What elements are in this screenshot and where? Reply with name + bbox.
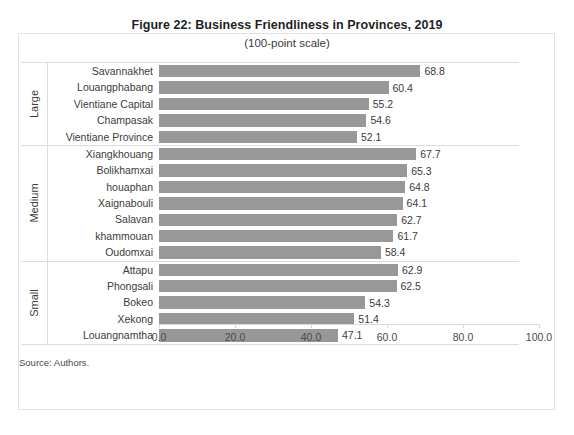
category-label: khammouan bbox=[47, 231, 159, 242]
group-rows: Savannakhet68.8Louangphabang60.4Vientian… bbox=[47, 63, 519, 145]
category-label: Xiangkhouang bbox=[47, 149, 159, 160]
bar-row: Salavan62.7 bbox=[47, 212, 519, 228]
bar-track: 68.8 bbox=[159, 63, 519, 79]
bar-value-label: 52.1 bbox=[361, 131, 381, 143]
chart-title: Figure 22: Business Friendliness in Prov… bbox=[0, 18, 574, 32]
bar bbox=[159, 214, 397, 226]
bar bbox=[159, 230, 393, 242]
bar bbox=[159, 148, 416, 160]
bar bbox=[159, 114, 366, 126]
size-group-small: SmallAttapu62.9Phongsali62.5Bokeo54.3Xek… bbox=[21, 261, 519, 345]
x-tick-mark bbox=[539, 324, 540, 328]
bar bbox=[159, 197, 403, 209]
bar bbox=[159, 264, 398, 276]
bar-track: 52.1 bbox=[159, 129, 519, 145]
bar-value-label: 47.1 bbox=[342, 329, 362, 341]
category-label: Louangnamtha bbox=[47, 330, 159, 341]
category-label: Vientiane Province bbox=[47, 132, 159, 143]
x-tick-label: 40.0 bbox=[301, 331, 321, 343]
bar-row: Champasak54.6 bbox=[47, 112, 519, 128]
plot-area: LargeSavannakhet68.8Louangphabang60.4Vie… bbox=[21, 62, 519, 324]
bar-row: Attapu62.9 bbox=[47, 262, 519, 278]
bar-track: 54.3 bbox=[159, 294, 519, 310]
x-tick-label: 80.0 bbox=[453, 331, 473, 343]
category-label: Phongsali bbox=[47, 281, 159, 292]
bar-track: 54.6 bbox=[159, 112, 519, 128]
source-note: Source: Authors. bbox=[19, 357, 89, 368]
bar-row: Bokeo54.3 bbox=[47, 294, 519, 310]
x-tick-label: 100.0 bbox=[526, 331, 552, 343]
category-label: Bolikhamxai bbox=[47, 165, 159, 176]
x-tick-label: 0.0 bbox=[152, 331, 167, 343]
bar-track: 61.7 bbox=[159, 228, 519, 244]
bar-track: 67.7 bbox=[159, 146, 519, 162]
bar bbox=[159, 98, 369, 110]
bar-track: 65.3 bbox=[159, 162, 519, 178]
group-label-medium: Medium bbox=[21, 146, 48, 261]
bar-row: Vientiane Capital55.2 bbox=[47, 96, 519, 112]
bar-track: 55.2 bbox=[159, 96, 519, 112]
bar-value-label: 58.4 bbox=[385, 246, 405, 258]
bar bbox=[159, 246, 381, 258]
group-label-text: Medium bbox=[28, 184, 40, 223]
bar-value-label: 68.8 bbox=[424, 65, 444, 77]
bar bbox=[159, 280, 397, 292]
category-label: Xaignabouli bbox=[47, 198, 159, 209]
bar-value-label: 60.4 bbox=[393, 82, 413, 94]
bar-value-label: 65.3 bbox=[411, 165, 431, 177]
category-label: Attapu bbox=[47, 265, 159, 276]
bar-row: Savannakhet68.8 bbox=[47, 63, 519, 79]
bar bbox=[159, 181, 405, 193]
bar-track: 58.4 bbox=[159, 244, 519, 260]
category-label: Savannakhet bbox=[47, 66, 159, 77]
bar bbox=[159, 131, 357, 143]
bar bbox=[159, 81, 389, 93]
bar-track: 60.4 bbox=[159, 79, 519, 95]
bar-value-label: 64.8 bbox=[409, 181, 429, 193]
bar bbox=[159, 65, 420, 77]
bar-value-label: 54.6 bbox=[370, 114, 390, 126]
bar-row: Xaignabouli64.1 bbox=[47, 195, 519, 211]
group-rows: Xiangkhouang67.7Bolikhamxai65.3houaphan6… bbox=[47, 146, 519, 261]
bar-row: Louangnamtha47.1 bbox=[47, 327, 519, 343]
bar-value-label: 61.7 bbox=[397, 230, 417, 242]
size-group-large: LargeSavannakhet68.8Louangphabang60.4Vie… bbox=[21, 62, 519, 145]
x-tick-mark bbox=[463, 324, 464, 328]
x-tick-label: 60.0 bbox=[377, 331, 397, 343]
bar-row: Oudomxai58.4 bbox=[47, 244, 519, 260]
category-label: Champasak bbox=[47, 115, 159, 126]
bar-value-label: 62.9 bbox=[402, 264, 422, 276]
bar-value-label: 64.1 bbox=[407, 197, 427, 209]
group-label-text: Small bbox=[28, 289, 40, 317]
category-label: Bokeo bbox=[47, 297, 159, 308]
x-tick-label: 20.0 bbox=[225, 331, 245, 343]
bar-value-label: 62.7 bbox=[401, 214, 421, 226]
group-rows: Attapu62.9Phongsali62.5Bokeo54.3Xekong51… bbox=[47, 262, 519, 344]
bar-track: 64.1 bbox=[159, 195, 519, 211]
x-tick-mark bbox=[235, 324, 236, 328]
bar-value-label: 62.5 bbox=[401, 280, 421, 292]
bar-row: Louangphabang60.4 bbox=[47, 79, 519, 95]
bar-row: khammouan61.7 bbox=[47, 228, 519, 244]
bar-row: Xiangkhouang67.7 bbox=[47, 146, 519, 162]
category-label: Xekong bbox=[47, 314, 159, 325]
x-tick-mark bbox=[387, 324, 388, 328]
bar-row: Phongsali62.5 bbox=[47, 278, 519, 294]
category-label: Salavan bbox=[47, 214, 159, 225]
group-label-large: Large bbox=[21, 63, 48, 145]
chart-subtitle: (100-point scale) bbox=[0, 37, 574, 49]
bar-track: 62.5 bbox=[159, 278, 519, 294]
category-label: Oudomxai bbox=[47, 247, 159, 258]
category-label: houaphan bbox=[47, 182, 159, 193]
bar-row: Vientiane Province52.1 bbox=[47, 129, 519, 145]
group-label-text: Large bbox=[28, 90, 40, 118]
bar-value-label: 67.7 bbox=[420, 148, 440, 160]
bar-row: Bolikhamxai65.3 bbox=[47, 162, 519, 178]
bar-value-label: 55.2 bbox=[373, 98, 393, 110]
size-group-medium: MediumXiangkhouang67.7Bolikhamxai65.3hou… bbox=[21, 145, 519, 261]
x-tick-mark bbox=[159, 324, 160, 328]
bar-track: 62.9 bbox=[159, 262, 519, 278]
bar bbox=[159, 164, 407, 176]
bar-value-label: 54.3 bbox=[369, 297, 389, 309]
category-label: Vientiane Capital bbox=[47, 99, 159, 110]
